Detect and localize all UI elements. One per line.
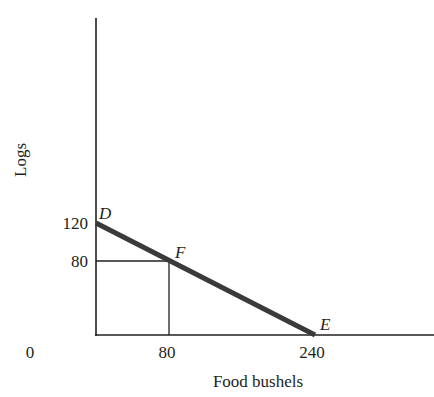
point-label-d: D — [98, 204, 112, 223]
x-tick-label-240: 240 — [299, 343, 325, 362]
y-axis-title: Logs — [11, 143, 30, 177]
point-label-e: E — [319, 315, 331, 334]
point-label-f: F — [174, 243, 186, 262]
x-tick-label-0: 0 — [26, 343, 35, 362]
x-tick-label-80: 80 — [159, 343, 176, 362]
frontier-line — [96, 223, 315, 335]
ppf-chart: D F E 120 80 0 80 240 Food bushels Logs — [0, 0, 434, 397]
y-tick-label-80: 80 — [71, 252, 88, 271]
x-axis-title: Food bushels — [213, 372, 303, 391]
y-tick-label-120: 120 — [63, 214, 89, 233]
